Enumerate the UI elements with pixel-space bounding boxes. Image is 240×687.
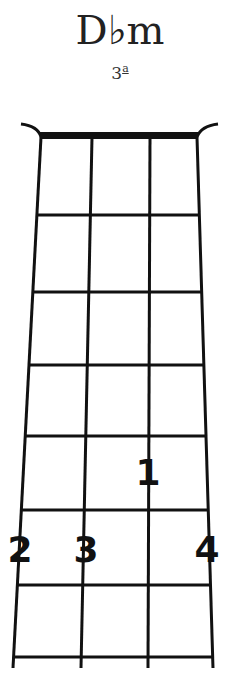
string-1 xyxy=(13,137,41,668)
string-2 xyxy=(81,137,92,668)
finger-3: 3 xyxy=(73,529,98,570)
finger-2: 2 xyxy=(7,529,32,570)
string-3 xyxy=(148,137,150,668)
finger-4: 4 xyxy=(194,529,219,570)
string-4 xyxy=(197,137,213,668)
fretboard-diagram: 1 2 3 4 xyxy=(0,0,240,687)
nut-curl-right xyxy=(197,124,218,137)
finger-1: 1 xyxy=(135,452,160,493)
fretboard-grid xyxy=(13,124,218,668)
nut-curl-left xyxy=(21,124,41,137)
nut xyxy=(40,132,198,139)
